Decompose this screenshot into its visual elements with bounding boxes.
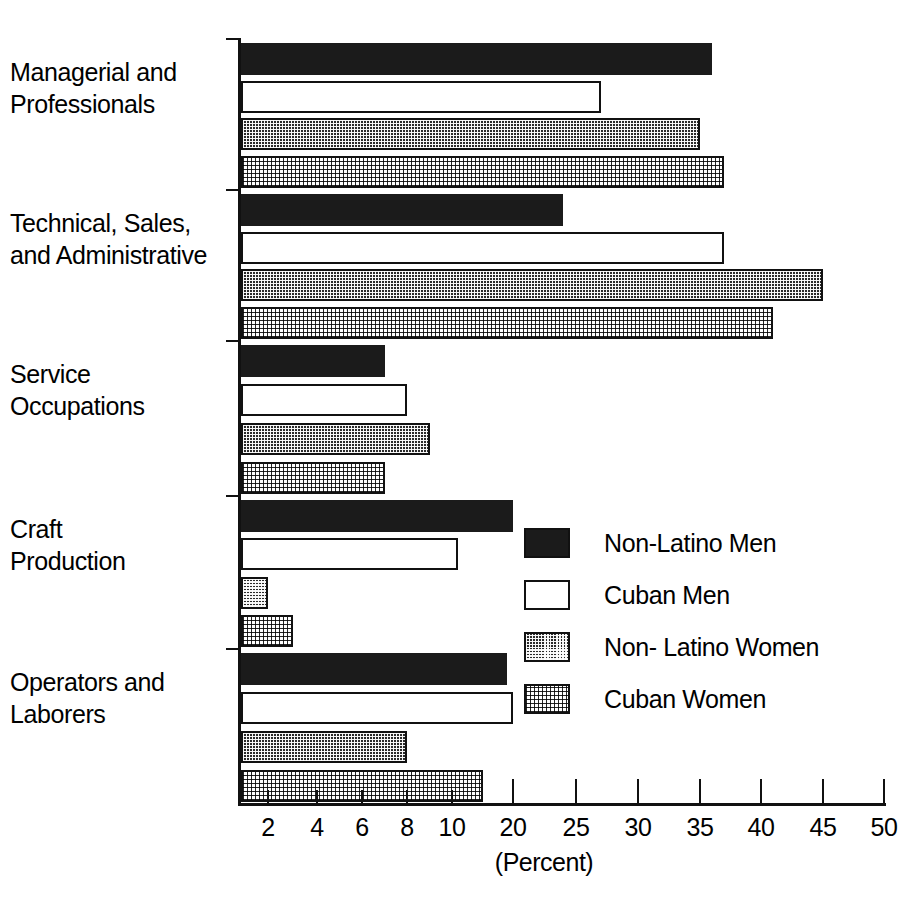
- x-axis-title: (Percent): [0, 848, 918, 877]
- legend-label-0: Non-Latino Men: [604, 529, 776, 558]
- bar-2-2: [241, 423, 430, 455]
- group-tick-4: [226, 648, 239, 650]
- group-tick-1: [226, 189, 239, 191]
- legend-swatch-open-icon: [524, 580, 570, 610]
- category-label-line: Technical, Sales,: [10, 207, 232, 239]
- bar-3-1: [241, 538, 458, 570]
- bar-3-0: [241, 500, 513, 532]
- category-label-0: Managerial andProfessionals: [10, 56, 232, 120]
- legend-label-2: Non- Latino Women: [604, 633, 819, 662]
- category-label-line: Laborers: [10, 698, 232, 730]
- bar-0-1: [241, 81, 601, 113]
- bar-1-3: [241, 307, 773, 339]
- bar-2-0: [241, 345, 385, 377]
- x-tick-10: [451, 790, 453, 804]
- x-tick-25: [575, 779, 577, 804]
- bar-2-1: [241, 384, 407, 416]
- legend-swatch-light-dot-icon: [524, 684, 570, 714]
- category-label-3: CraftProduction: [10, 513, 232, 577]
- legend-label-3: Cuban Women: [604, 685, 766, 714]
- legend-item-2: Non- Latino Women: [524, 621, 884, 673]
- category-label-line: Craft: [10, 513, 232, 545]
- bar-chart: Managerial andProfessionalsTechnical, Sa…: [0, 0, 918, 913]
- group-tick-2: [226, 340, 239, 342]
- x-tick-20: [512, 779, 514, 804]
- x-tick-label-35: 35: [687, 812, 714, 842]
- x-tick-6: [361, 790, 363, 804]
- bar-4-2: [241, 731, 407, 763]
- bar-4-0: [241, 653, 507, 685]
- x-tick-label-40: 40: [748, 812, 775, 842]
- x-tick-label-6: 6: [355, 812, 368, 842]
- bar-1-2: [241, 269, 823, 301]
- x-tick-30: [637, 779, 639, 804]
- bar-3-3: [241, 615, 293, 647]
- category-label-line: Professionals: [10, 88, 232, 120]
- category-label-line: Service: [10, 358, 232, 390]
- bar-0-3: [241, 156, 724, 188]
- x-tick-4: [316, 790, 318, 804]
- x-tick-label-50: 50: [871, 812, 898, 842]
- x-tick-label-30: 30: [625, 812, 652, 842]
- bar-4-1: [241, 692, 513, 724]
- category-label-line: Operators and: [10, 666, 232, 698]
- category-label-2: ServiceOccupations: [10, 358, 232, 422]
- x-axis-line: [238, 803, 886, 806]
- category-label-line: and Administrative: [10, 239, 232, 271]
- bar-1-1: [241, 232, 724, 264]
- legend: Non-Latino MenCuban MenNon- Latino Women…: [524, 517, 884, 725]
- x-tick-45: [822, 779, 824, 804]
- legend-item-0: Non-Latino Men: [524, 517, 884, 569]
- x-tick-label-45: 45: [810, 812, 837, 842]
- bar-1-0: [241, 194, 563, 226]
- legend-label-1: Cuban Men: [604, 581, 730, 610]
- group-tick-0: [226, 38, 239, 40]
- bar-0-2: [241, 118, 700, 150]
- x-tick-2: [267, 790, 269, 804]
- legend-swatch-dark-dot-icon: [524, 632, 570, 662]
- x-tick-label-2: 2: [261, 812, 274, 842]
- legend-item-3: Cuban Women: [524, 673, 884, 725]
- category-label-line: Production: [10, 545, 232, 577]
- x-tick-35: [699, 779, 701, 804]
- legend-swatch-solid-icon: [524, 528, 570, 558]
- category-label-1: Technical, Sales,and Administrative: [10, 207, 232, 271]
- x-tick-label-4: 4: [310, 812, 323, 842]
- x-tick-label-25: 25: [563, 812, 590, 842]
- category-label-line: Managerial and: [10, 56, 232, 88]
- x-tick-40: [760, 779, 762, 804]
- group-tick-3: [226, 495, 239, 497]
- category-label-4: Operators andLaborers: [10, 666, 232, 730]
- bar-2-3: [241, 462, 385, 494]
- x-tick-8: [406, 790, 408, 804]
- x-tick-label-8: 8: [400, 812, 413, 842]
- category-label-line: Occupations: [10, 390, 232, 422]
- x-tick-50: [883, 779, 885, 804]
- bar-0-0: [241, 43, 712, 75]
- legend-item-1: Cuban Men: [524, 569, 884, 621]
- bar-3-2: [241, 577, 268, 609]
- x-tick-label-20: 20: [500, 812, 527, 842]
- x-tick-label-10: 10: [439, 812, 466, 842]
